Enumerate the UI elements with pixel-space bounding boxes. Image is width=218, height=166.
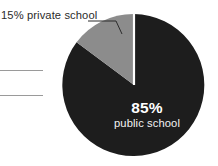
pie-chart-figure: 15% private school 85% public school	[0, 0, 218, 166]
public-school-percent-label: 85%	[104, 99, 190, 117]
private-school-callout-label: 15% private school	[1, 9, 97, 22]
public-school-name-label: public school	[104, 117, 190, 129]
pie-graphic	[0, 0, 218, 166]
